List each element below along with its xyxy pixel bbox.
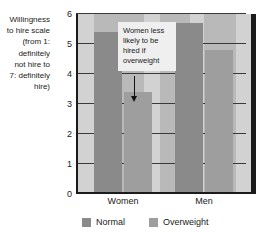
- legend-label-normal: Normal: [96, 217, 125, 227]
- bar-women-overweight: [124, 92, 152, 194]
- y-axis-tick-labels: 6 5 4 3 2 1 0: [52, 14, 72, 196]
- x-tick-label-men: Men: [195, 196, 213, 206]
- y-axis-line: [76, 14, 78, 194]
- y-axis-title-line-7: hire): [2, 81, 50, 92]
- plot-band: [236, 14, 251, 194]
- callout-line-1: Women less: [123, 26, 172, 36]
- callout-line-4: overweight: [123, 56, 172, 66]
- y-axis-title-line-3: (from 1:: [2, 36, 50, 47]
- callout-arrow-icon: [134, 76, 135, 97]
- plot-band: [76, 14, 94, 194]
- callout-line-3: hired if: [123, 46, 172, 56]
- y-tick-label-4: 4: [67, 70, 72, 79]
- y-axis-title: Willingness to hire scale (from 1: defin…: [2, 14, 50, 92]
- y-tick-label-1: 1: [67, 160, 72, 169]
- x-tick-label-women: Women: [108, 196, 139, 206]
- bar-men-overweight: [205, 50, 233, 194]
- y-axis-title-line-2: to hire scale: [2, 25, 50, 36]
- x-axis-tick-labels: Women Men: [76, 196, 256, 212]
- y-tick-label-0: 0: [67, 190, 72, 199]
- gridline-6: [76, 13, 246, 14]
- y-tick-label-6: 6: [67, 10, 72, 19]
- legend-label-overweight: Overweight: [163, 217, 209, 227]
- y-axis-title-line-6: 7: definitely: [2, 70, 50, 81]
- legend-item-normal[interactable]: Normal: [82, 217, 125, 227]
- y-axis-title-line-1: Willingness: [2, 14, 50, 25]
- legend-item-overweight[interactable]: Overweight: [149, 217, 209, 227]
- y-tick-label-5: 5: [67, 40, 72, 49]
- chart-figure: Willingness to hire scale (from 1: defin…: [0, 0, 262, 237]
- y-axis-title-line-5: not hire to: [2, 59, 50, 70]
- y-tick-label-2: 2: [67, 130, 72, 139]
- legend-swatch-overweight-icon: [149, 218, 158, 227]
- legend-swatch-normal-icon: [82, 218, 91, 227]
- bar-men-normal: [175, 23, 203, 194]
- x-axis-line: [76, 192, 256, 194]
- legend: Normal Overweight: [76, 214, 256, 230]
- y-tick-label-3: 3: [67, 100, 72, 109]
- callout-line-2: likely to be: [123, 36, 172, 46]
- y-axis-title-line-4: definitely: [2, 48, 50, 59]
- annotation-callout: Women less likely to be hired if overwei…: [118, 22, 176, 71]
